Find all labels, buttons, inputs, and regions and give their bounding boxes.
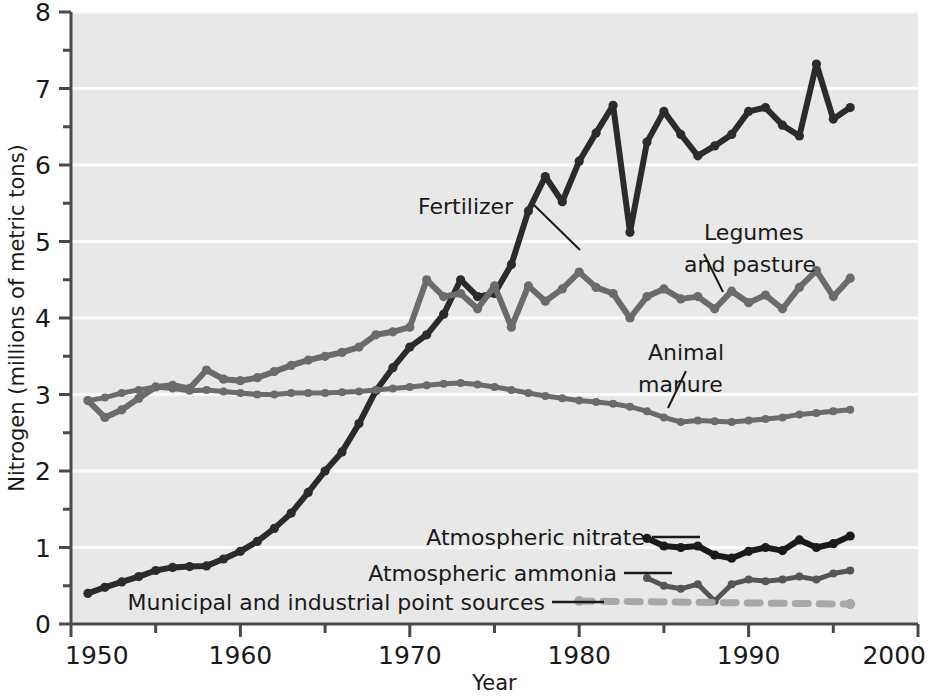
legumes-label-line2: and pasture [684,252,816,277]
data-point-fertilizer [609,101,618,110]
data-point-animal-manure [406,383,414,391]
data-point-legumes-and-pasture [134,394,143,403]
animal-manure-label-line1: Animal [648,340,724,365]
data-point-animal-manure [84,397,92,405]
data-point-fertilizer [778,121,787,130]
data-point-fertilizer [812,59,821,68]
data-point-fertilizer [541,172,550,181]
data-point-animal-manure [643,407,651,415]
data-point-atmospheric-nitrate [829,539,838,548]
data-point-fertilizer [575,157,584,166]
data-point-animal-manure [711,417,719,425]
atmospheric-nitrate-label: Atmospheric nitrate [426,525,645,550]
y-tick-label-5: 5 [35,228,51,257]
data-point-animal-manure [118,389,126,397]
data-point-atmospheric-ammonia [660,582,668,590]
data-point-atmospheric-nitrate [727,554,736,563]
y-tick-label-7: 7 [35,75,51,104]
data-point-fertilizer [507,260,516,269]
data-point-fertilizer [321,466,330,475]
data-point-animal-manure [558,394,566,402]
data-point-animal-manure [694,417,702,425]
data-point-fertilizer [642,138,651,147]
x-tick-label-1960: 1960 [209,641,273,670]
data-point-legumes-and-pasture [422,275,431,284]
data-point-legumes-and-pasture [253,373,262,382]
data-point-fertilizer [422,330,431,339]
data-point-animal-manure [745,417,753,425]
data-point-atmospheric-nitrate [710,551,719,560]
data-point-atmospheric-ammonia [694,580,702,588]
data-point-atmospheric-ammonia [829,570,837,578]
atmospheric-ammonia-label: Atmospheric ammonia [368,561,617,586]
data-point-legumes-and-pasture [524,281,533,290]
legumes-label-line1: Legumes [704,220,804,245]
data-point-fertilizer [185,562,194,571]
data-point-fertilizer [744,107,753,116]
data-point-atmospheric-nitrate [778,546,787,555]
municipal-point-sources-label: Municipal and industrial point sources [127,590,545,615]
data-point-fertilizer [659,107,668,116]
chart-svg: 012345678195019601970198019902000YearNit… [0,0,938,696]
data-point-legumes-and-pasture [575,268,584,277]
data-point-fertilizer [253,537,262,546]
data-point-atmospheric-nitrate [744,547,753,556]
data-point-fertilizer [558,197,567,206]
data-point-atmospheric-nitrate [761,543,770,552]
data-point-fertilizer [83,589,92,598]
data-point-legumes-and-pasture [727,287,736,296]
data-point-animal-manure [203,386,211,394]
data-point-fertilizer [439,310,448,319]
y-tick-label-4: 4 [35,304,51,333]
data-point-legumes-and-pasture [405,323,414,332]
data-point-animal-manure [728,418,736,426]
data-point-fertilizer [592,128,601,137]
data-point-animal-manure [609,400,617,408]
data-point-animal-manure [101,394,109,402]
data-point-animal-manure [541,392,549,400]
x-tick-label-1950: 1950 [65,641,129,670]
data-point-animal-manure [440,380,448,388]
data-point-fertilizer [168,563,177,572]
data-point-animal-manure [152,383,160,391]
x-tick-label-2000: 2000 [862,641,926,670]
data-point-legumes-and-pasture [117,405,126,414]
data-point-atmospheric-ammonia [779,576,787,584]
data-point-animal-manure [677,418,685,426]
data-point-legumes-and-pasture [439,292,448,301]
data-point-fertilizer [625,228,634,237]
data-point-animal-manure [186,387,194,395]
data-point-fertilizer [117,577,126,586]
x-axis-title: Year [471,671,517,695]
y-axis-title: Nitrogen (millions of metric tons) [5,144,29,492]
data-point-animal-manure [660,413,668,421]
data-point-fertilizer [219,554,228,563]
data-point-animal-manure [338,388,346,396]
data-point-animal-manure [253,391,261,399]
data-point-fertilizer [405,343,414,352]
data-point-animal-manure [846,406,854,414]
data-point-legumes-and-pasture [321,352,330,361]
data-point-animal-manure [491,383,499,391]
data-point-atmospheric-ammonia [812,576,820,584]
data-point-atmospheric-ammonia [677,585,685,593]
data-point-legumes-and-pasture [202,365,211,374]
data-point-animal-manure [423,381,431,389]
data-point-legumes-and-pasture [490,281,499,290]
data-point-animal-manure [372,386,380,394]
data-point-atmospheric-ammonia [846,567,854,575]
data-point-animal-manure [220,387,228,395]
data-point-fertilizer [795,131,804,140]
y-tick-label-3: 3 [35,381,51,410]
x-tick-label-1990: 1990 [717,641,781,670]
data-point-fertilizer [100,583,109,592]
data-point-legumes-and-pasture [846,274,855,283]
data-point-atmospheric-nitrate [659,541,668,550]
data-point-animal-manure [812,409,820,417]
data-point-fertilizer [710,141,719,150]
data-point-legumes-and-pasture [558,284,567,293]
data-point-animal-manure [355,387,363,395]
data-point-legumes-and-pasture [642,292,651,301]
nitrogen-sources-line-chart: 012345678195019601970198019902000YearNit… [0,0,938,696]
data-point-legumes-and-pasture [829,292,838,301]
